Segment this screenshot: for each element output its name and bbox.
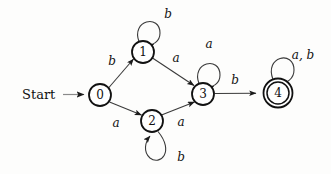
transition-label-0-to-2: a bbox=[112, 116, 119, 130]
self-loop-state-2 bbox=[145, 132, 165, 161]
state-node-1[interactable]: 1 bbox=[132, 41, 154, 63]
state-node-4[interactable]: 4 bbox=[264, 79, 293, 108]
self-loop-label-state-2: b bbox=[177, 150, 185, 164]
transition-label-2-to-3: a bbox=[177, 115, 184, 129]
state-label-0: 0 bbox=[96, 88, 104, 102]
transition-label-3-to-4: b bbox=[231, 73, 239, 87]
state-label-2: 2 bbox=[148, 114, 156, 128]
automaton-diagram: Start b a b a b a a b a, b 0 bbox=[0, 0, 331, 174]
state-node-0[interactable]: 0 bbox=[89, 84, 111, 106]
transition-0-to-2 bbox=[110, 102, 142, 115]
transition-label-1-to-3: a bbox=[172, 51, 179, 65]
transition-2-to-3 bbox=[162, 102, 195, 115]
transition-label-0-to-1: b bbox=[108, 54, 116, 68]
self-loop-label-state-3: a bbox=[205, 37, 212, 51]
state-label-3: 3 bbox=[199, 87, 207, 101]
state-node-2[interactable]: 2 bbox=[141, 110, 163, 132]
self-loop-label-state-4: a, b bbox=[292, 48, 314, 62]
state-label-4: 4 bbox=[274, 86, 282, 100]
start-label: Start bbox=[22, 87, 56, 102]
state-label-1: 1 bbox=[139, 45, 147, 59]
self-loop-label-state-1: b bbox=[164, 7, 172, 21]
state-node-3[interactable]: 3 bbox=[192, 83, 214, 105]
